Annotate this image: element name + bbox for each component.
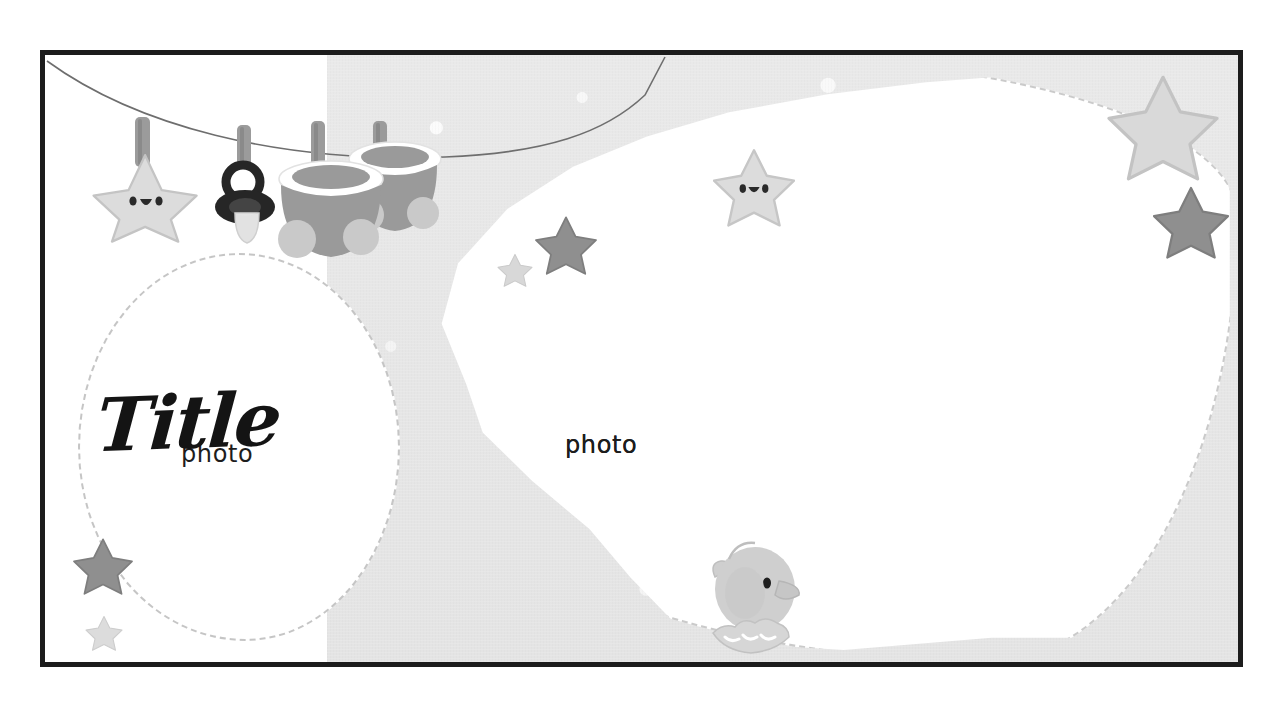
star-mid-left-icon: [535, 215, 597, 275]
rubber-duck-icon: [705, 525, 815, 667]
star-top-right-dark-icon: [1153, 185, 1229, 259]
collage-canvas: photo photo photo: [0, 0, 1283, 707]
star-plush-toy-icon: [89, 113, 201, 253]
star-top-right-big-icon: [1107, 73, 1219, 181]
photo-label-3: photo: [565, 431, 637, 459]
star-tiny-left-icon: [497, 253, 533, 287]
page-frame: photo photo photo: [40, 50, 1243, 667]
baby-booties-icon: [277, 121, 457, 281]
star-bottom-left-small-icon: [85, 615, 123, 651]
star-bottom-left-icon: [73, 537, 133, 595]
star-face-center-icon: [713, 147, 795, 227]
page-title[interactable]: Title: [94, 382, 282, 462]
